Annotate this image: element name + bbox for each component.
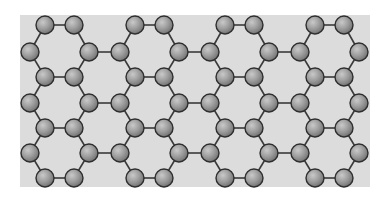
atom-sphere — [111, 43, 129, 61]
atom-sphere — [260, 144, 278, 162]
atom-sphere — [291, 94, 309, 112]
atom-sphere — [350, 94, 368, 112]
atom-sphere — [155, 68, 173, 86]
atom-sphere — [291, 144, 309, 162]
atom-sphere — [21, 94, 39, 112]
atom-sphere — [36, 169, 54, 187]
atom-sphere — [306, 68, 324, 86]
atom-sphere — [36, 68, 54, 86]
atom-sphere — [306, 16, 324, 34]
atom-sphere — [335, 169, 353, 187]
atom-sphere — [126, 119, 144, 137]
atom-sphere — [245, 169, 263, 187]
atom-sphere — [155, 119, 173, 137]
atom-sphere — [155, 169, 173, 187]
atom-sphere — [216, 16, 234, 34]
atom-sphere — [201, 94, 219, 112]
atom-sphere — [21, 43, 39, 61]
atom-sphere — [126, 68, 144, 86]
atom-sphere — [80, 43, 98, 61]
atom-sphere — [36, 119, 54, 137]
atom-sphere — [65, 68, 83, 86]
atom-sphere — [216, 119, 234, 137]
atom-sphere — [291, 43, 309, 61]
atom-sphere — [80, 144, 98, 162]
atom-sphere — [170, 43, 188, 61]
atom-sphere — [65, 16, 83, 34]
atom-sphere — [260, 94, 278, 112]
atom-sphere — [170, 144, 188, 162]
atom-sphere — [111, 94, 129, 112]
atom-sphere — [350, 43, 368, 61]
atom-sphere — [216, 169, 234, 187]
atom-sphere — [36, 16, 54, 34]
atom-sphere — [306, 119, 324, 137]
atom-sphere — [201, 144, 219, 162]
atom-sphere — [245, 68, 263, 86]
atom-sphere — [126, 16, 144, 34]
atom-sphere — [350, 144, 368, 162]
atom-sphere — [306, 169, 324, 187]
atom-sphere — [155, 16, 173, 34]
honeycomb-lattice-diagram — [0, 0, 382, 198]
atom-sphere — [245, 119, 263, 137]
atom-sphere — [201, 43, 219, 61]
atom-sphere — [170, 94, 188, 112]
atom-sphere — [111, 144, 129, 162]
atom-sphere — [245, 16, 263, 34]
atom-sphere — [65, 169, 83, 187]
atom-sphere — [335, 119, 353, 137]
atom-sphere — [335, 16, 353, 34]
atom-sphere — [21, 144, 39, 162]
atom-sphere — [260, 43, 278, 61]
lattice-panel-background — [20, 15, 370, 187]
atom-sphere — [216, 68, 234, 86]
atom-sphere — [80, 94, 98, 112]
atom-sphere — [126, 169, 144, 187]
atom-sphere — [65, 119, 83, 137]
atom-sphere — [335, 68, 353, 86]
